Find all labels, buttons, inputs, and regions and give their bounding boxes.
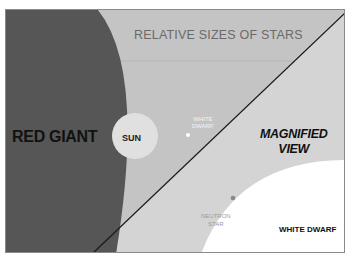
neutron-star-label: NEUTRON STAR [201,212,231,228]
neutron-star-label-line2: STAR [201,220,231,228]
diagram-title: RELATIVE SIZES OF STARS [134,28,303,42]
star-size-diagram: RELATIVE SIZES OF STARS RED GIANT SUN WH… [5,9,345,253]
magnified-view-label: MAGNIFIED VIEW [260,127,327,157]
red-giant-label: RED GIANT [12,128,97,146]
white-dwarf-small-label-line1: WHITE [192,116,214,123]
white-dwarf-small-dot [186,133,190,137]
magnified-view-label-line2: VIEW [260,142,327,157]
white-dwarf-small-label: WHITE DWARF [192,116,214,130]
sun-label: SUN [122,133,141,143]
white-dwarf-small-label-line2: DWARF [192,123,214,130]
white-dwarf-large-label: WHITE DWARF [279,225,336,234]
magnified-view-label-line1: MAGNIFIED [260,127,327,142]
neutron-star-label-line1: NEUTRON [201,212,231,220]
neutron-star-dot [231,196,236,201]
